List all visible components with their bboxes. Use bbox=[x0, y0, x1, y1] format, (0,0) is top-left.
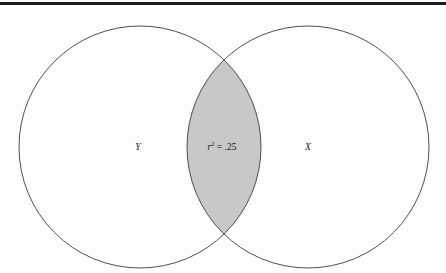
intersection-label-value: = .25 bbox=[214, 142, 236, 152]
circle-y-label: Y bbox=[135, 142, 142, 152]
venn-diagram-figure: Y X r2 = .25 bbox=[0, 0, 446, 273]
top-horizontal-rule bbox=[0, 2, 446, 5]
circle-x-label: X bbox=[304, 142, 312, 152]
venn-diagram-canvas: Y X r2 = .25 bbox=[0, 0, 446, 273]
